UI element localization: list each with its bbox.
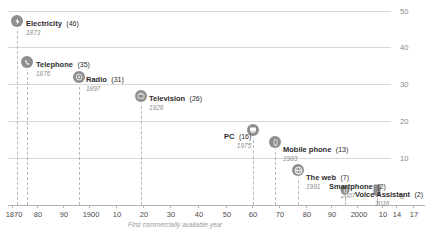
- television-icon[interactable]: [135, 90, 147, 102]
- point-year-television: 1926: [149, 105, 202, 112]
- xtick-label-2010: 10: [379, 210, 387, 219]
- point-name-electricity: Electricity: [26, 19, 62, 28]
- ytick-label-50: 50: [400, 7, 409, 16]
- xtick-label-1870: 1870: [6, 210, 23, 219]
- point-name-pc: PC: [224, 132, 234, 141]
- xtick-label-1960: 60: [249, 210, 257, 219]
- point-label-electricity: Electricity (46) 1873: [26, 13, 79, 37]
- xtick-1920: [143, 205, 144, 208]
- point-name-voice: Voice Assistant: [355, 190, 410, 199]
- xtick-1990: [331, 205, 332, 208]
- xtick-label-1980: 80: [303, 210, 311, 219]
- plot-area: 50 40 30 20 10 0: [0, 0, 434, 234]
- point-year-electricity: 1873: [26, 30, 79, 37]
- point-label-pc: PC (16) 1975: [224, 126, 251, 150]
- ytick-label-40: 40: [400, 43, 409, 52]
- dropline-radio: [79, 82, 80, 205]
- dropline-mobile: [275, 147, 276, 205]
- mobile-phone-icon[interactable]: [269, 136, 281, 148]
- xtick-label-2000: 2000: [351, 210, 368, 219]
- point-year-voice: 2016: [375, 201, 423, 208]
- x-axis-caption: First commercially available year: [128, 221, 222, 228]
- point-count-electricity: (46): [66, 20, 78, 27]
- point-count-mobile: (13): [336, 146, 348, 153]
- point-year-telephone: 1876: [36, 71, 90, 78]
- adoption-time-scatter-chart: 50 40 30 20 10 0: [0, 0, 434, 234]
- point-label-radio: Radio (31) 1897: [86, 69, 124, 93]
- web-icon[interactable]: [292, 164, 304, 176]
- gridline-40: [8, 47, 391, 48]
- xtick-label-1910: 10: [113, 210, 121, 219]
- point-count-radio: (31): [111, 76, 123, 83]
- point-label-telephone: Telephone (35) 1876: [36, 54, 90, 78]
- xtick-label-2017: 17: [410, 210, 418, 219]
- xtick-1950: [226, 205, 227, 208]
- point-name-television: Television: [149, 94, 185, 103]
- dropline-telephone: [27, 67, 28, 205]
- point-name-telephone: Telephone: [36, 60, 73, 69]
- point-label-television: Television (26) 1926: [149, 88, 202, 112]
- dropline-web: [298, 175, 299, 205]
- point-year-radio: 1897: [86, 86, 124, 93]
- xtick-label-1920: 20: [140, 210, 148, 219]
- gridline-30: [8, 84, 391, 85]
- xtick-label-1940: 40: [195, 210, 203, 219]
- xtick-1910: [116, 205, 117, 208]
- xtick-label-1930: 30: [167, 210, 175, 219]
- dropline-pc: [253, 135, 254, 205]
- xtick-1980: [306, 205, 307, 208]
- point-count-television: (26): [190, 95, 202, 102]
- point-year-mobile: 1983: [283, 156, 348, 163]
- electricity-icon[interactable]: [11, 15, 23, 27]
- telephone-icon[interactable]: [21, 56, 33, 68]
- point-count-voice: (2): [414, 191, 423, 198]
- xtick-label-1970: 70: [276, 210, 284, 219]
- xtick-1900: [89, 205, 90, 208]
- xtick-label-1950: 50: [223, 210, 231, 219]
- point-name-radio: Radio: [86, 75, 107, 84]
- point-name-mobile: Mobile phone: [283, 145, 331, 154]
- point-year-pc: 1975: [224, 143, 251, 150]
- xtick-1960: [252, 205, 253, 208]
- xtick-1890: [63, 205, 64, 208]
- xtick-1970: [279, 205, 280, 208]
- xtick-1940: [198, 205, 199, 208]
- xtick-label-1900: 1900: [83, 210, 100, 219]
- point-label-voice: Voice Assistant (2) 2016: [355, 184, 423, 208]
- dropline-electricity: [17, 26, 18, 205]
- ytick-label-30: 30: [400, 80, 409, 89]
- dropline-television: [141, 101, 142, 205]
- xtick-label-2014: 14: [393, 210, 401, 219]
- point-label-mobile: Mobile phone (13) 1983: [283, 139, 348, 163]
- gridline-20: [8, 121, 391, 122]
- xtick-label-1880: 80: [34, 210, 42, 219]
- xtick-label-1890: 90: [60, 210, 68, 219]
- xtick-1880: [37, 205, 38, 208]
- ytick-label-20: 20: [400, 117, 409, 126]
- xtick-1870: [12, 205, 13, 208]
- point-count-telephone: (35): [77, 61, 89, 68]
- point-count-pc: (16): [239, 133, 251, 140]
- xtick-label-1990: 90: [328, 210, 336, 219]
- ytick-label-10: 10: [400, 154, 409, 163]
- xtick-1930: [170, 205, 171, 208]
